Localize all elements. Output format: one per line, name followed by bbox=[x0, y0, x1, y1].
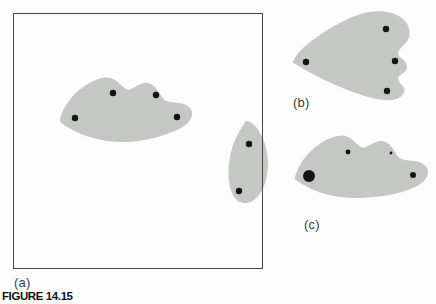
panel-a-label: (a) bbox=[14, 276, 31, 289]
feature-dot bbox=[303, 170, 315, 182]
feature-dot bbox=[110, 90, 116, 96]
figure-caption: FIGURE 14.15 bbox=[2, 290, 73, 302]
panel-b bbox=[293, 11, 410, 100]
feature-dot bbox=[384, 88, 390, 94]
feature-dot bbox=[392, 58, 398, 64]
feature-dot bbox=[410, 172, 416, 178]
feature-dot bbox=[390, 152, 393, 155]
blob-b bbox=[293, 11, 410, 100]
blob-c bbox=[295, 135, 428, 198]
feature-dot bbox=[303, 59, 309, 65]
blob-a-main bbox=[60, 77, 192, 142]
panel-b-label: (b) bbox=[293, 96, 310, 109]
figure-diagram bbox=[0, 0, 436, 304]
feature-dot bbox=[246, 141, 252, 147]
panel-c-label: (c) bbox=[304, 218, 320, 231]
feature-dot bbox=[153, 92, 159, 98]
feature-dot bbox=[346, 150, 351, 155]
feature-dot bbox=[383, 26, 389, 32]
panel-c bbox=[295, 135, 428, 198]
feature-dot bbox=[174, 114, 180, 120]
figure-page: (a) (b) (c) FIGURE 14.15 bbox=[0, 0, 436, 304]
panel-a bbox=[14, 14, 269, 269]
feature-dot bbox=[72, 115, 78, 121]
feature-dot bbox=[236, 188, 242, 194]
